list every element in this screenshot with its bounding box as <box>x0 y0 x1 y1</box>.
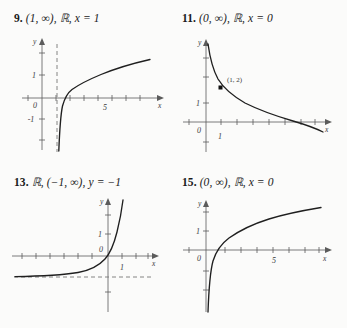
graph-9-origin: 0 <box>33 101 37 110</box>
graph-9-ytick-1: 1 <box>32 71 36 80</box>
graph-13-origin: 0 <box>99 245 103 254</box>
graph-9: 5 1 0 -1 x y <box>0 0 173 164</box>
graph-15-ytick-1: 1 <box>196 227 200 236</box>
graph-9-xtick-5: 5 <box>103 103 107 112</box>
graph-11-curve <box>208 44 323 132</box>
graph-11-xlabel: x <box>324 125 329 134</box>
graph-11-point-label: (1, 2) <box>227 76 243 84</box>
graph-15-x-arrow <box>325 247 332 253</box>
graph-11-point-marker <box>219 86 223 90</box>
graph-11: (1, 2) 1 0 1 x y <box>173 0 346 164</box>
graph-13: 1 0 1 x y <box>0 164 173 328</box>
graph-15-xlabel: x <box>322 254 327 263</box>
graph-15-y-arrow <box>203 200 209 207</box>
graph-15-origin: 0 <box>197 254 201 263</box>
graph-13-ylabel: y <box>99 197 104 206</box>
graph-15: 1 0 5 x y <box>173 164 346 328</box>
graph-15-curve <box>208 208 321 313</box>
graph-15-xtick-5: 5 <box>272 256 276 265</box>
graph-9-xlabel: x <box>157 101 162 110</box>
graph-11-xtick-1: 1 <box>218 132 222 141</box>
problem-15-panel: 15. (0, ∞), ℝ, x = 0 <box>173 164 346 328</box>
graph-11-ytick-1: 1 <box>196 99 200 108</box>
graph-9-y-arrow <box>39 38 45 45</box>
graph-13-y-arrow <box>105 198 111 205</box>
graph-13-curve <box>15 200 123 277</box>
problem-13-panel: 13. ℝ, (−1, ∞), y = −1 <box>0 164 173 328</box>
problem-11-panel: 11. (0, ∞), ℝ, x = 0 <box>173 0 346 164</box>
graph-9-ytick-neg1: -1 <box>28 115 35 124</box>
graph-13-xtick-1: 1 <box>120 263 124 272</box>
graph-13-xlabel: x <box>151 259 156 268</box>
graph-13-ytick-1: 1 <box>98 230 102 239</box>
graph-11-ylabel: y <box>197 38 202 47</box>
graph-9-ylabel: y <box>32 37 37 46</box>
graph-15-ylabel: y <box>197 199 202 208</box>
graph-11-origin: 0 <box>197 126 201 135</box>
problem-9-panel: 9. (1, ∞), ℝ, x = 1 <box>0 0 173 164</box>
answer-key-sheet: 9. (1, ∞), ℝ, x = 1 <box>0 0 347 328</box>
